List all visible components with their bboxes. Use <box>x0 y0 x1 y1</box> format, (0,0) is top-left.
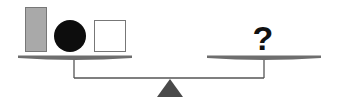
balance-scale: ? <box>0 0 339 102</box>
fulcrum-triangle <box>157 79 183 97</box>
gray-rectangle <box>26 8 47 52</box>
black-circle <box>54 20 86 52</box>
white-square <box>95 21 126 52</box>
question-mark: ? <box>253 19 274 57</box>
left-pan <box>18 56 132 61</box>
